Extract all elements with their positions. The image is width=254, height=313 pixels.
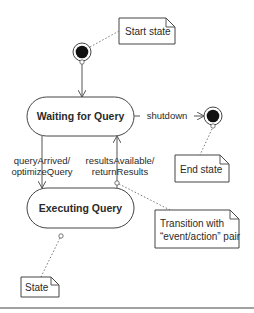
results-available-event: resultsAvailable/	[85, 155, 154, 166]
transition-anchor-icon	[115, 181, 119, 185]
start-note-connector	[90, 31, 119, 47]
transition-note: Transition with “event/action” pair	[155, 210, 241, 248]
state-note-connector	[41, 238, 60, 277]
start-state-note-label: Start state	[125, 26, 171, 37]
return-results-action: returnResults	[92, 166, 149, 177]
state-executing-label: Executing Query	[39, 202, 123, 214]
query-arrived-event: queryArrived/	[14, 155, 71, 166]
end-state-note-label: End state	[180, 164, 223, 175]
end-state-icon	[204, 107, 222, 128]
state-note: State	[21, 277, 59, 297]
state-note-label: State	[25, 282, 49, 293]
state-waiting-label: Waiting for Query	[37, 110, 125, 122]
state-diagram: Start state Waiting for Query shutdown E…	[0, 0, 254, 313]
state-executing-query: Executing Query	[27, 188, 134, 228]
end-state-note: End state	[175, 155, 229, 182]
transition-note-line2: “event/action” pair	[160, 231, 241, 242]
shutdown-label: shutdown	[147, 110, 188, 121]
state-waiting-for-query: Waiting for Query	[27, 97, 134, 136]
state-anchor-icon	[59, 234, 63, 238]
optimize-query-action: optimizeQuery	[11, 166, 72, 177]
start-state-icon	[73, 43, 91, 64]
end-note-connector	[200, 129, 212, 155]
start-state-note: Start state	[119, 18, 175, 44]
transition-note-line1: Transition with	[160, 218, 224, 229]
